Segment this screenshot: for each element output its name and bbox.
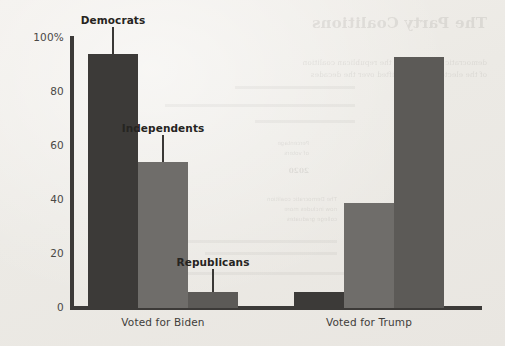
x-group-label-trump: Voted for Trump xyxy=(294,316,444,328)
callout-republicans-leader-line xyxy=(212,269,214,292)
bar-trump-democrats xyxy=(294,292,344,308)
y-tick-20: 20 xyxy=(4,247,64,259)
callout-independents-label: Independents xyxy=(122,122,205,134)
x-group-label-biden: Voted for Biden xyxy=(88,316,238,328)
callout-republicans-label: Republicans xyxy=(176,256,249,268)
y-tick-0: 0 xyxy=(4,301,64,313)
callout-independents-leader-line xyxy=(162,135,164,162)
bar-chart-plot: 100% 80 60 40 20 0 Democrats Independent… xyxy=(0,0,505,346)
y-tick-100: 100% xyxy=(4,31,64,43)
bar-trump-republicans xyxy=(394,57,444,308)
callout-democrats-leader-line xyxy=(112,27,114,54)
y-tick-60: 60 xyxy=(4,139,64,151)
bar-biden-democrats xyxy=(88,54,138,308)
bar-biden-independents xyxy=(138,162,188,308)
chart-page: The Party Coalitions democratic coalitio… xyxy=(0,0,505,346)
callout-democrats-label: Democrats xyxy=(81,14,146,26)
bar-biden-republicans xyxy=(188,292,238,308)
y-axis-ticks: 100% 80 60 40 20 0 xyxy=(0,0,64,346)
y-axis-line xyxy=(70,36,74,310)
bar-trump-independents xyxy=(344,203,394,308)
y-tick-40: 40 xyxy=(4,193,64,205)
y-tick-80: 80 xyxy=(4,85,64,97)
